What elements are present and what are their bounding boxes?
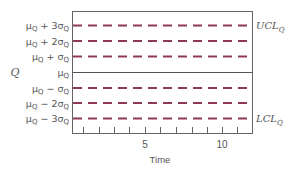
x-tick-label-5: 5	[142, 139, 148, 150]
x-tick-label-10: 10	[216, 139, 228, 150]
label-minus-3sigma: μQ − 3σQ	[26, 113, 70, 126]
ucl-label: UCLQ	[256, 20, 285, 34]
label-minus-1sigma: μQ − σQ	[32, 83, 70, 96]
x-ticks	[84, 127, 238, 133]
lcl-label: LCLQ	[255, 113, 283, 127]
label-plus-3sigma: μQ + 3σQ	[26, 20, 70, 33]
label-minus-2sigma: μQ − 2σQ	[26, 98, 70, 111]
control-chart: 5 10 Time Q μQ + 3σQ μQ + 2σQ μQ + σQ μQ…	[0, 0, 297, 173]
label-center: μQ	[57, 67, 69, 80]
label-plus-1sigma: μQ + σQ	[32, 51, 70, 64]
label-plus-2sigma: μQ + 2σQ	[26, 36, 70, 49]
y-axis-title: Q	[10, 66, 19, 79]
x-axis-title: Time	[150, 154, 171, 165]
